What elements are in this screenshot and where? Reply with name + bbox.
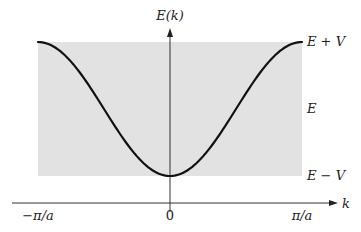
energy-axis-arrow-icon <box>167 28 173 37</box>
level-label-band-bottom: E − V <box>306 168 347 183</box>
k-axis-label: k <box>342 196 350 211</box>
level-label-band-center: E <box>306 101 317 116</box>
x-tick-minus-pi-over-a: −π/a <box>22 208 54 223</box>
x-tick-zero: 0 <box>166 208 174 223</box>
k-axis-arrow-icon <box>329 200 338 206</box>
energy-axis-label: E(k) <box>155 8 184 23</box>
band-structure-diagram: E(k) k −π/a 0 π/a E + V E E − V <box>0 0 361 232</box>
x-tick-pi-over-a: π/a <box>291 208 313 223</box>
level-label-band-top: E + V <box>306 34 347 49</box>
